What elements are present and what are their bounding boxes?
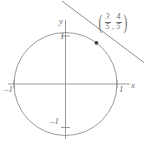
x-denominator: 5 [106, 23, 110, 31]
x-tick-label-minus-1: –1 [4, 85, 13, 94]
y-numerator: 4 [117, 13, 121, 21]
x-coordinate-fraction: 3 5 [104, 13, 111, 32]
tangency-point-marker [95, 41, 99, 45]
point-coordinate-label: ( 3 5 , 4 5 ) [97, 13, 129, 32]
right-paren: ) [124, 14, 128, 30]
x-tick-label-1: 1 [119, 85, 124, 94]
unit-circle-tangent-figure: y x 1 –1 1 –1 ( 3 5 , 4 5 ) [0, 0, 145, 145]
x-numerator: 3 [106, 13, 110, 21]
y-coordinate-fraction: 4 5 [115, 13, 122, 32]
y-denominator: 5 [117, 23, 121, 31]
x-axis-label: x [131, 81, 135, 90]
left-paren: ( [99, 14, 103, 30]
y-tick-label-minus-1: –1 [50, 117, 59, 126]
y-axis-label: y [59, 17, 63, 26]
y-tick-label-1: 1 [60, 32, 65, 41]
